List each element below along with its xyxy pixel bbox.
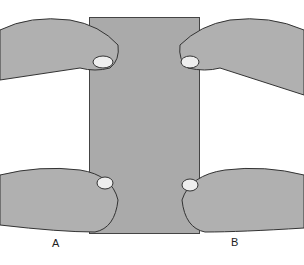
hand-bottom-left [0, 168, 118, 232]
hands-illustration [0, 0, 304, 265]
hand-top-right [180, 19, 304, 95]
hand-bottom-right [182, 168, 304, 232]
label-b: B [231, 236, 238, 248]
label-a: A [52, 237, 59, 249]
hand-top-left [0, 19, 118, 80]
